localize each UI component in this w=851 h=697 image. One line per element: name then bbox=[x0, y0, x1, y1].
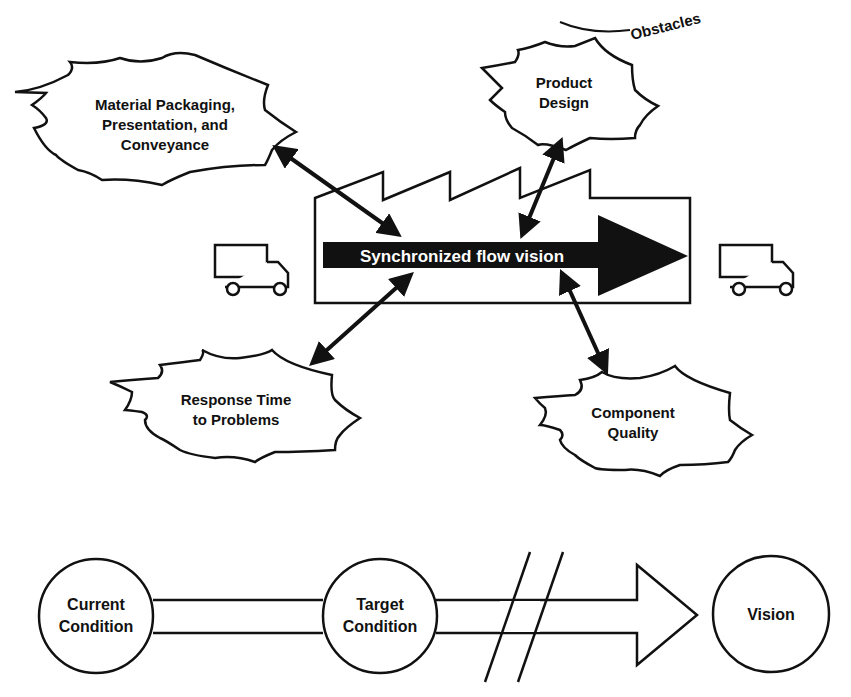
current-condition-line2: Condition bbox=[59, 618, 134, 635]
truck-icon-right bbox=[720, 245, 793, 295]
obstacles-leader-line bbox=[560, 22, 630, 31]
current-condition-circle bbox=[39, 559, 153, 673]
obstacle-component-quality bbox=[535, 366, 752, 476]
obstacle-component-line1: Component bbox=[591, 404, 674, 421]
diagram-canvas: Obstacles Synchronized flow vision Mater… bbox=[0, 0, 851, 697]
obstacle-component-line2: Quality bbox=[608, 424, 660, 441]
vision-label: Vision bbox=[747, 606, 795, 623]
current-condition-line1: Current bbox=[67, 596, 125, 613]
target-condition-circle bbox=[323, 559, 437, 673]
obstacle-material-line1: Material Packaging, bbox=[95, 96, 235, 113]
obstacle-material-line3: Conveyance bbox=[121, 136, 209, 153]
obstacle-response-line2: to Problems bbox=[193, 411, 280, 428]
obstacle-response-line1: Response Time bbox=[181, 391, 292, 408]
main-arrow-label: Synchronized flow vision bbox=[360, 247, 564, 266]
target-condition-line2: Condition bbox=[343, 618, 418, 635]
target-condition-line1: Target bbox=[356, 596, 404, 613]
condition-progression bbox=[39, 552, 829, 682]
obstacles-label: Obstacles bbox=[629, 9, 703, 43]
obstacle-product-line2: Design bbox=[539, 94, 589, 111]
obstacle-material-line2: Presentation, and bbox=[102, 116, 228, 133]
obstacle-product-line1: Product bbox=[536, 74, 593, 91]
truck-icon-left bbox=[215, 245, 288, 295]
